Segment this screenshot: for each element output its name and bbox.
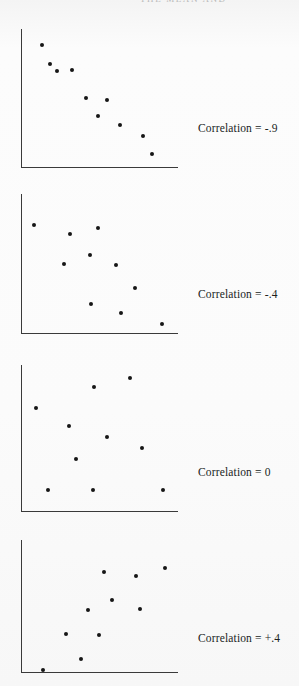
data-point [141, 134, 146, 139]
correlation-label-3: Correlation = 0 [198, 466, 271, 478]
data-point [70, 68, 75, 73]
data-point [91, 488, 96, 493]
data-point [48, 62, 53, 67]
data-point [105, 435, 110, 440]
data-point [89, 302, 94, 307]
data-point [34, 406, 39, 411]
data-point [96, 226, 101, 231]
scatter-plot-2 [21, 194, 178, 333]
data-point [110, 598, 115, 603]
data-point [67, 424, 72, 429]
data-point [55, 69, 60, 74]
data-point [118, 123, 123, 128]
y-axis-line-4 [21, 540, 22, 672]
data-point [133, 286, 138, 291]
correlation-label-4: Correlation = +.4 [198, 632, 280, 644]
data-point [68, 232, 73, 237]
scatter-plot-1 [21, 29, 178, 167]
data-point [161, 488, 166, 493]
data-point [84, 96, 89, 101]
correlation-label-2: Correlation = -.4 [198, 288, 278, 300]
y-axis-line-3 [21, 365, 22, 511]
x-axis-line-1 [21, 167, 178, 168]
scatter-plot-4 [21, 540, 178, 672]
scatter-plot-3 [21, 365, 178, 511]
data-point [160, 322, 165, 327]
data-point [163, 566, 168, 571]
data-point [105, 98, 110, 103]
data-point [97, 633, 102, 638]
data-point [150, 152, 155, 157]
y-axis-line-2 [21, 194, 22, 333]
data-point [128, 376, 133, 381]
data-point [40, 43, 45, 48]
correlation-label-1: Correlation = -.9 [198, 122, 278, 134]
data-point [46, 488, 51, 493]
data-point [88, 253, 93, 258]
data-point [74, 457, 79, 462]
x-axis-line-2 [21, 333, 178, 334]
data-point [140, 446, 145, 451]
data-point [119, 311, 124, 316]
data-point [86, 608, 91, 613]
data-point [102, 570, 107, 575]
x-axis-line-3 [21, 511, 178, 512]
data-point [79, 657, 84, 662]
data-point [114, 263, 119, 268]
data-point [64, 632, 69, 637]
x-axis-line-4 [21, 672, 178, 673]
data-point [134, 574, 139, 579]
y-axis-line-1 [21, 29, 22, 167]
figure-page: THE MEAN AND Correlation = -.9Correlatio… [0, 0, 299, 686]
data-point [92, 385, 97, 390]
data-point [96, 114, 101, 119]
data-point [32, 223, 37, 228]
data-point [138, 607, 143, 612]
data-point [62, 262, 67, 267]
running-head: THE MEAN AND [140, 0, 290, 3]
